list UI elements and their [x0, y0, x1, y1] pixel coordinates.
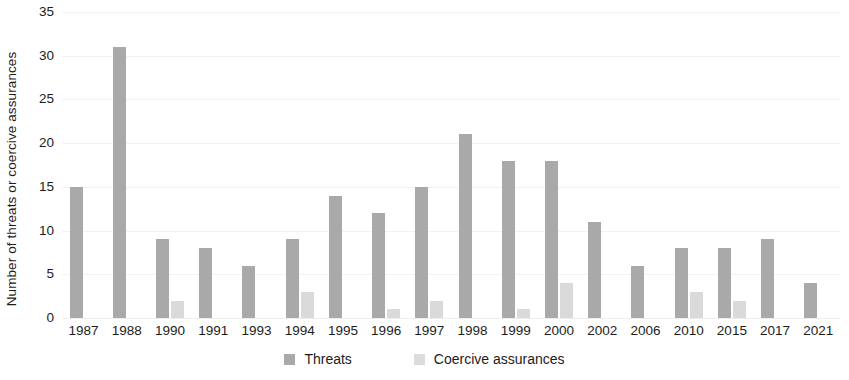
legend-swatch-icon — [414, 354, 425, 365]
y-axis-tick-labels: 35302520151050 — [8, 12, 54, 318]
x-axis-tick-label: 1994 — [278, 321, 321, 343]
x-axis-tick-label: 1988 — [105, 321, 148, 343]
x-axis-tick-label: 2017 — [754, 321, 797, 343]
bar-chart: Number of threats or coercive assurances… — [0, 0, 849, 380]
bar-threats — [372, 213, 385, 318]
x-axis-tick-label: 2000 — [537, 321, 580, 343]
y-axis-tick-label: 5 — [10, 268, 54, 282]
bar-threats — [761, 239, 774, 318]
bar-threats — [156, 239, 169, 318]
bar-group — [235, 12, 278, 318]
x-axis-tick-label: 1996 — [365, 321, 408, 343]
bar-group — [278, 12, 321, 318]
legend-item: Coercive assurances — [414, 352, 565, 366]
bar-group — [754, 12, 797, 318]
bar-assurances — [171, 301, 184, 318]
bar-group — [62, 12, 105, 318]
plot-area — [62, 12, 840, 318]
bar-assurances — [387, 309, 400, 318]
x-axis-tick-label: 2021 — [797, 321, 840, 343]
legend-item: Threats — [284, 352, 351, 366]
x-axis-tick-label: 1990 — [148, 321, 191, 343]
bar-group — [494, 12, 537, 318]
bar-group — [105, 12, 148, 318]
bar-threats — [286, 239, 299, 318]
bar-group — [797, 12, 840, 318]
bar-assurances — [733, 301, 746, 318]
x-axis-tick-label: 1999 — [494, 321, 537, 343]
bar-threats — [804, 283, 817, 318]
x-axis-tick-label: 2006 — [624, 321, 667, 343]
x-axis-tick-label: 1991 — [192, 321, 235, 343]
x-axis-tick-labels: 1987198819901991199319941995199619971998… — [62, 321, 840, 343]
y-axis-tick-label: 20 — [10, 136, 54, 150]
bar-threats — [113, 47, 126, 318]
bar-threats — [588, 222, 601, 318]
chart-legend: ThreatsCoercive assurances — [0, 352, 849, 366]
x-axis-tick-label: 1993 — [235, 321, 278, 343]
bar-threats — [329, 196, 342, 318]
bar-threats — [545, 161, 558, 318]
x-axis-tick-label: 2010 — [667, 321, 710, 343]
x-axis-tick-label: 1995 — [321, 321, 364, 343]
bar-group — [624, 12, 667, 318]
bar-threats — [415, 187, 428, 318]
bar-assurances — [560, 283, 573, 318]
bar-group — [581, 12, 624, 318]
y-axis-tick-label: 0 — [10, 311, 54, 325]
bar-assurances — [690, 292, 703, 318]
bar-threats — [70, 187, 83, 318]
bar-group — [192, 12, 235, 318]
y-axis-tick-label: 35 — [10, 5, 54, 19]
bar-group — [451, 12, 494, 318]
legend-swatch-icon — [284, 354, 295, 365]
bar-threats — [242, 266, 255, 318]
bar-groups — [62, 12, 840, 318]
bar-threats — [631, 266, 644, 318]
bar-threats — [718, 248, 731, 318]
legend-label: Coercive assurances — [434, 352, 565, 366]
bar-assurances — [517, 309, 530, 318]
bar-group — [321, 12, 364, 318]
bar-group — [667, 12, 710, 318]
x-axis-tick-label: 1998 — [451, 321, 494, 343]
x-axis-tick-label: 1987 — [62, 321, 105, 343]
bar-threats — [675, 248, 688, 318]
bar-group — [365, 12, 408, 318]
x-axis-tick-label: 2002 — [581, 321, 624, 343]
bar-group — [148, 12, 191, 318]
y-axis-tick-label: 10 — [10, 224, 54, 238]
bar-group — [710, 12, 753, 318]
y-axis-tick-label: 30 — [10, 49, 54, 63]
bar-assurances — [301, 292, 314, 318]
bar-assurances — [430, 301, 443, 318]
bar-threats — [502, 161, 515, 318]
gridline — [62, 318, 840, 319]
x-axis-tick-label: 2015 — [710, 321, 753, 343]
y-axis-tick-label: 15 — [10, 180, 54, 194]
x-axis-tick-label: 1997 — [408, 321, 451, 343]
y-axis-tick-label: 25 — [10, 93, 54, 107]
bar-group — [408, 12, 451, 318]
bar-threats — [199, 248, 212, 318]
bar-group — [537, 12, 580, 318]
bar-threats — [459, 134, 472, 318]
legend-label: Threats — [304, 352, 351, 366]
